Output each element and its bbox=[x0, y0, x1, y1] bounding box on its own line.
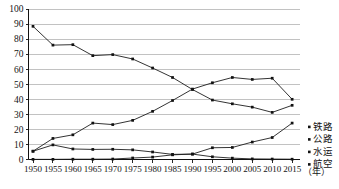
legend-marker bbox=[308, 151, 311, 154]
x-axis-tick-labels: 1950195519601965197019751980198519901995… bbox=[24, 164, 302, 174]
data-point-marker bbox=[32, 150, 35, 153]
data-point-marker bbox=[251, 158, 254, 161]
data-point-marker bbox=[271, 158, 274, 161]
x-tick-label: 2000 bbox=[223, 164, 242, 174]
x-tick-label: 1995 bbox=[203, 164, 222, 174]
data-point-marker bbox=[271, 136, 274, 139]
data-point-marker bbox=[151, 110, 154, 113]
legend-item-label: 水运 bbox=[313, 146, 333, 157]
data-point-marker bbox=[52, 44, 55, 47]
data-point-marker bbox=[32, 158, 35, 161]
data-point-marker bbox=[191, 88, 194, 91]
x-axis bbox=[29, 160, 301, 163]
y-tick-label: 0 bbox=[19, 155, 24, 165]
data-point-marker bbox=[111, 158, 114, 161]
gridlines bbox=[29, 9, 301, 144]
data-point-marker bbox=[211, 155, 214, 158]
data-point-marker bbox=[91, 148, 94, 151]
data-point-marker bbox=[52, 144, 55, 147]
y-tick-label: 80 bbox=[14, 34, 24, 44]
y-tick-label: 50 bbox=[14, 80, 24, 90]
legend-marker bbox=[308, 163, 311, 166]
x-tick-label: 1965 bbox=[84, 164, 103, 174]
y-axis bbox=[26, 9, 29, 160]
data-point-marker bbox=[251, 141, 254, 144]
data-series bbox=[32, 25, 294, 161]
x-tick-label: 2010 bbox=[263, 164, 282, 174]
data-point-marker bbox=[211, 99, 214, 102]
legend: 铁路公路水运航空 bbox=[308, 121, 333, 170]
data-point-marker bbox=[151, 151, 154, 154]
data-point-marker bbox=[291, 104, 294, 107]
series-4 bbox=[32, 122, 294, 161]
data-point-marker bbox=[91, 54, 94, 57]
y-tick-label: 90 bbox=[14, 19, 24, 29]
line-chart: 0102030405060708090100 19501955196019651… bbox=[0, 0, 339, 189]
data-point-marker bbox=[251, 78, 254, 81]
legend-item-label: 航空 bbox=[313, 158, 333, 169]
y-tick-label: 40 bbox=[14, 95, 24, 105]
data-point-marker bbox=[91, 122, 94, 125]
data-point-marker bbox=[251, 106, 254, 109]
x-tick-label: 2005 bbox=[243, 164, 262, 174]
data-point-marker bbox=[32, 25, 35, 28]
x-tick-label: 2015 bbox=[283, 164, 302, 174]
x-tick-label: 1960 bbox=[64, 164, 83, 174]
y-tick-label: 70 bbox=[14, 49, 24, 59]
data-point-marker bbox=[191, 153, 194, 156]
data-point-marker bbox=[72, 148, 75, 151]
data-point-marker bbox=[52, 137, 55, 140]
x-tick-label: 1990 bbox=[183, 164, 202, 174]
data-point-marker bbox=[151, 67, 154, 70]
data-point-marker bbox=[231, 76, 234, 79]
data-point-marker bbox=[72, 158, 75, 161]
x-tick-label: 1970 bbox=[104, 164, 123, 174]
legend-marker bbox=[308, 138, 311, 141]
data-point-marker bbox=[131, 119, 134, 122]
data-point-marker bbox=[52, 158, 55, 161]
data-point-marker bbox=[171, 153, 174, 156]
data-point-marker bbox=[111, 53, 114, 56]
y-tick-label: 60 bbox=[14, 65, 24, 75]
data-point-marker bbox=[231, 102, 234, 105]
data-point-marker bbox=[111, 148, 114, 151]
chart-canvas: 0102030405060708090100 19501955196019651… bbox=[0, 0, 339, 189]
data-point-marker bbox=[171, 76, 174, 79]
y-tick-label: 100 bbox=[9, 4, 24, 14]
data-point-marker bbox=[151, 156, 154, 159]
data-point-marker bbox=[291, 98, 294, 101]
legend-item-label: 公路 bbox=[313, 133, 333, 144]
data-point-marker bbox=[72, 133, 75, 136]
y-tick-label: 10 bbox=[14, 140, 24, 150]
data-point-marker bbox=[111, 123, 114, 126]
x-tick-label: 1975 bbox=[124, 164, 143, 174]
legend-item-label: 铁路 bbox=[313, 121, 333, 132]
data-point-marker bbox=[291, 158, 294, 161]
data-point-marker bbox=[72, 43, 75, 46]
x-tick-label: 1950 bbox=[24, 164, 43, 174]
series-3 bbox=[32, 144, 294, 161]
x-tick-label: 1955 bbox=[44, 164, 63, 174]
x-tick-label: 1985 bbox=[164, 164, 183, 174]
x-tick-label: 1980 bbox=[144, 164, 163, 174]
y-tick-label: 20 bbox=[14, 125, 24, 135]
y-tick-label: 30 bbox=[14, 110, 24, 120]
data-point-marker bbox=[211, 146, 214, 149]
data-point-marker bbox=[271, 77, 274, 80]
data-point-marker bbox=[231, 146, 234, 149]
y-axis-tick-labels: 0102030405060708090100 bbox=[9, 4, 24, 165]
legend-marker bbox=[308, 126, 311, 129]
data-point-marker bbox=[231, 157, 234, 160]
series-line bbox=[33, 145, 292, 159]
data-point-marker bbox=[131, 58, 134, 61]
data-point-marker bbox=[171, 99, 174, 102]
data-point-marker bbox=[91, 158, 94, 161]
data-point-marker bbox=[271, 111, 274, 114]
data-point-marker bbox=[131, 157, 134, 160]
data-point-marker bbox=[131, 149, 134, 152]
data-point-marker bbox=[211, 81, 214, 84]
data-point-marker bbox=[291, 122, 294, 125]
